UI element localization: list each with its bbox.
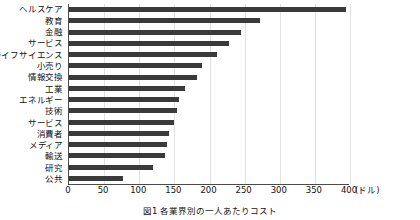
x-axis-tick-label: 400: [341, 186, 357, 195]
bar: [69, 41, 229, 46]
bar-row: [69, 173, 349, 184]
bar-row: [69, 162, 349, 173]
bar: [69, 52, 217, 57]
bar: [69, 86, 185, 91]
x-axis: (ドル) 050100150200250300350400: [68, 186, 349, 202]
category-label: 技術: [0, 106, 66, 117]
bar-row: [69, 139, 349, 150]
bar-row: [69, 49, 349, 60]
x-axis-tick-label: 50: [98, 186, 109, 195]
category-label: サービス: [0, 117, 66, 128]
category-label: 小売り: [0, 61, 66, 72]
category-label: 工業: [0, 83, 66, 94]
plot-area: [68, 4, 349, 185]
figure-caption: 図1 各業界別の一人あたりコスト: [0, 207, 420, 216]
x-axis-tick-label: 150: [165, 186, 181, 195]
category-label: 情報交換: [0, 72, 66, 83]
bar: [69, 30, 241, 35]
x-axis-tick-label: 250: [236, 186, 252, 195]
x-axis-tick-label: 100: [130, 186, 146, 195]
bar-row: [69, 94, 349, 105]
bar: [69, 120, 174, 125]
x-axis-tick-label: 300: [271, 186, 287, 195]
bar-row: [69, 60, 349, 71]
category-label: 公共: [0, 174, 66, 185]
bar-row: [69, 105, 349, 116]
bar-row: [69, 27, 349, 38]
category-label: 輸送: [0, 151, 66, 162]
bar-row: [69, 83, 349, 94]
category-label: メディア: [0, 140, 66, 151]
bar-row: [69, 117, 349, 128]
category-label: 金融: [0, 27, 66, 38]
bar-chart-figure: ヘルスケア教育金融サービスライフサイエンス小売り情報交換工業エネルギー技術サービ…: [0, 0, 420, 220]
bar-row: [69, 15, 349, 26]
bar: [69, 7, 346, 12]
bar-row: [69, 38, 349, 49]
plot-wrapper: ヘルスケア教育金融サービスライフサイエンス小売り情報交換工業エネルギー技術サービ…: [0, 4, 420, 189]
bar-series: [69, 4, 349, 184]
bar: [69, 176, 123, 181]
bar-row: [69, 4, 349, 15]
x-axis-tick-label: 0: [65, 186, 70, 195]
gridline: [350, 4, 351, 184]
bar: [69, 131, 169, 136]
category-label: 消費者: [0, 128, 66, 139]
category-label: ヘルスケア: [0, 4, 66, 15]
category-label: ライフサイエンス: [0, 49, 66, 60]
bar-row: [69, 72, 349, 83]
x-axis-tick-label: 200: [200, 186, 216, 195]
category-label: エネルギー: [0, 95, 66, 106]
x-axis-unit-label: (ドル): [355, 186, 380, 195]
category-label: サービス: [0, 38, 66, 49]
bar: [69, 75, 197, 80]
bar: [69, 165, 153, 170]
bar: [69, 142, 167, 147]
bar-row: [69, 128, 349, 139]
x-axis-tick-label: 350: [306, 186, 322, 195]
bar: [69, 63, 202, 68]
category-label: 研究: [0, 162, 66, 173]
category-label: 教育: [0, 15, 66, 26]
bar: [69, 153, 165, 158]
bar-row: [69, 150, 349, 161]
category-axis-labels: ヘルスケア教育金融サービスライフサイエンス小売り情報交換工業エネルギー技術サービ…: [0, 4, 66, 185]
bar: [69, 18, 260, 23]
bar: [69, 97, 179, 102]
bar: [69, 108, 177, 113]
